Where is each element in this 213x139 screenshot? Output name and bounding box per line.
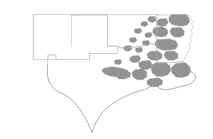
south-central-us-choropleth-map [0,0,213,139]
map-figure [0,0,213,139]
county-cluster [147,78,163,87]
state-new-mexico [34,15,119,60]
county-cluster [155,39,178,50]
county-cluster [139,60,152,69]
county-cluster [147,51,162,60]
county-cluster [169,15,190,27]
